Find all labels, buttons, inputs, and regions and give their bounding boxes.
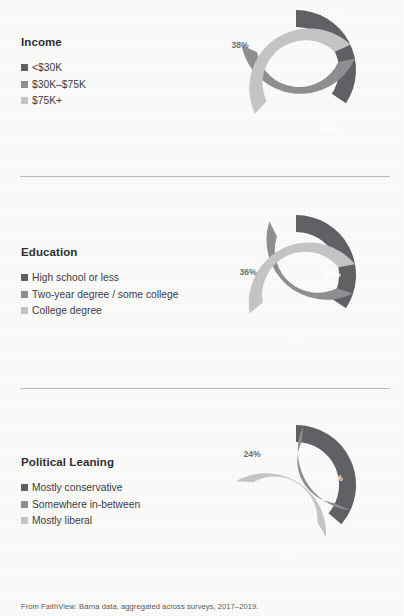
legend-education: Education High school or less Two-year d… (21, 246, 179, 321)
legend-label: $30K–$75K (32, 78, 86, 91)
legend-swatch-icon (21, 307, 28, 314)
section-income: Income <$30K $30K–$75K $75K+ (0, 0, 404, 176)
list-item[interactable]: Somewhere in-between (21, 498, 140, 511)
legend-swatch-icon (21, 97, 28, 104)
donut-svg-education: 30% 34% 36% (226, 205, 366, 345)
page-title-education: Education (21, 246, 179, 258)
donut-value-label: 30% (323, 269, 341, 279)
page-title-political-leaning: Political Leaning (21, 456, 140, 468)
legend-political-leaning: Political Leaning Mostly conservative So… (21, 456, 140, 531)
infographic-page: Income <$30K $30K–$75K $75K+ (0, 0, 404, 616)
donut-value-label: 36% (239, 267, 257, 277)
source-attribution: From FaithView: Barna data, aggregated a… (21, 602, 258, 611)
donut-chart-income: 22% 40% 38% (226, 0, 366, 140)
donut-value-label: 44% (279, 546, 297, 556)
donut-svg-income: 22% 40% 38% (226, 0, 366, 140)
donut-chart-political-leaning: 32% 44% 24% (226, 415, 366, 567)
donut-segment-2[interactable] (233, 471, 330, 537)
donut-value-label: 34% (287, 330, 305, 340)
legend-label: Two-year degree / some college (32, 288, 179, 301)
legend-label: Mostly liberal (32, 514, 92, 527)
list-item[interactable]: Two-year degree / some college (21, 288, 179, 301)
list-item[interactable]: <$30K (21, 61, 86, 74)
legend-label: Mostly conservative (32, 481, 122, 494)
legend-swatch-icon (21, 517, 28, 524)
legend-income: Income <$30K $30K–$75K $75K+ (21, 36, 86, 111)
list-item[interactable]: Mostly conservative (21, 481, 140, 494)
legend-label: <$30K (32, 61, 62, 74)
legend-swatch-icon (21, 501, 28, 508)
legend-swatch-icon (21, 291, 28, 298)
legend-label: High school or less (32, 271, 119, 284)
donut-chart-education: 30% 34% 36% (226, 205, 366, 345)
donut-value-label: 40% (321, 124, 339, 134)
legend-swatch-icon (21, 81, 28, 88)
legend-label: $75K+ (32, 94, 62, 107)
legend-swatch-icon (21, 274, 28, 281)
legend-label: College degree (32, 304, 102, 317)
legend-swatch-icon (21, 64, 28, 71)
donut-value-label: 32% (325, 473, 343, 483)
page-title-income: Income (21, 36, 86, 48)
list-item[interactable]: $30K–$75K (21, 78, 86, 91)
legend-label: Somewhere in-between (32, 498, 140, 511)
list-item[interactable]: $75K+ (21, 94, 86, 107)
list-item[interactable]: College degree (21, 304, 179, 317)
section-education: Education High school or less Two-year d… (0, 176, 404, 388)
legend-swatch-icon (21, 484, 28, 491)
donut-value-label: 38% (231, 40, 249, 50)
list-item[interactable]: High school or less (21, 271, 179, 284)
section-political-leaning: Political Leaning Mostly conservative So… (0, 388, 404, 616)
donut-value-label: 24% (243, 449, 261, 459)
donut-value-label: 22% (323, 9, 341, 19)
donut-svg-political-leaning: 32% 44% 24% (226, 415, 366, 567)
list-item[interactable]: Mostly liberal (21, 514, 140, 527)
